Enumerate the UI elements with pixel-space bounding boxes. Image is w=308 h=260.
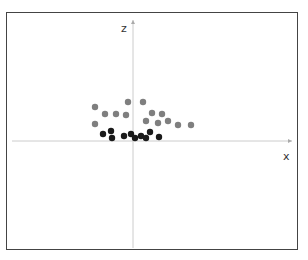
- black-point: [100, 131, 106, 137]
- gray-point: [92, 121, 98, 127]
- gray-point: [143, 118, 149, 124]
- black-point: [108, 128, 114, 134]
- z-arrow-icon: [131, 20, 135, 24]
- gray-point: [113, 111, 119, 117]
- gray-point: [188, 122, 194, 128]
- gray-point: [149, 110, 155, 116]
- black-point: [156, 134, 162, 140]
- gray-point: [92, 104, 98, 110]
- x-arrow-icon: [288, 139, 292, 143]
- black-point: [143, 135, 149, 141]
- gray-point: [175, 122, 181, 128]
- x-axis-label: x: [283, 150, 290, 163]
- gray-point: [123, 112, 129, 118]
- scatter-plot: [0, 0, 308, 260]
- black-point: [121, 133, 127, 139]
- black-point: [132, 135, 138, 141]
- gray-point: [155, 120, 161, 126]
- gray-point: [159, 111, 165, 117]
- black-point: [109, 135, 115, 141]
- data-points: [92, 99, 194, 141]
- gray-point: [125, 99, 131, 105]
- black-point: [147, 129, 153, 135]
- z-axis-label: z: [121, 22, 127, 35]
- gray-point: [165, 118, 171, 124]
- gray-point: [140, 99, 146, 105]
- gray-point: [102, 111, 108, 117]
